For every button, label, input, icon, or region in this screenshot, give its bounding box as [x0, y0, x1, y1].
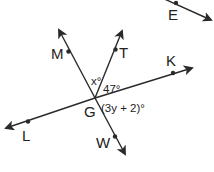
point-t: [113, 47, 117, 51]
label-g: G: [84, 103, 96, 120]
geometry-diagram: M T K G L W E x° 47° (3y + 2)°: [0, 0, 214, 172]
point-w: [113, 134, 117, 138]
point-m: [66, 49, 70, 53]
line-lk-left: [6, 98, 95, 128]
label-w: W: [96, 134, 111, 151]
label-k: K: [166, 52, 176, 69]
angle-3y-plus-2-label: (3y + 2)°: [101, 102, 145, 114]
point-e: [174, 1, 178, 5]
line-mw: [59, 30, 95, 98]
diagram-svg: M T K G L W E x° 47° (3y + 2)°: [0, 0, 214, 172]
label-e: E: [168, 6, 178, 23]
label-l: L: [22, 127, 30, 144]
label-m: M: [51, 45, 64, 62]
point-k: [171, 71, 175, 75]
angle-x-label: x°: [91, 75, 101, 87]
label-t: T: [119, 44, 128, 61]
point-l: [26, 119, 30, 123]
angle-47-label: 47°: [103, 83, 120, 95]
